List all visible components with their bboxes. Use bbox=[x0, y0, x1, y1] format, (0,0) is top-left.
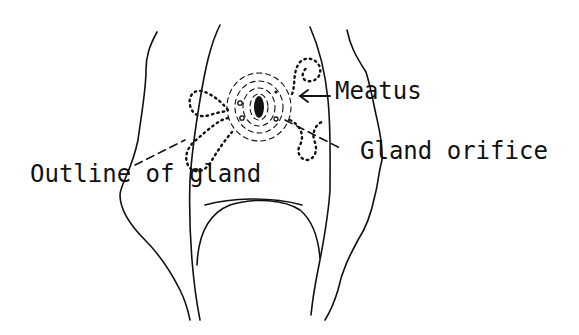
gland-outline-right-lower bbox=[290, 120, 322, 160]
label-gland-orifice: Gland orifice bbox=[360, 137, 548, 165]
label-outline-of-gland: Outline of gland bbox=[30, 160, 261, 188]
vestibule-arch bbox=[197, 200, 320, 265]
gland-outline-left-upper bbox=[190, 91, 228, 116]
meatus-opening bbox=[254, 96, 264, 118]
gland-orifice-dot bbox=[238, 101, 242, 105]
diagram-canvas: Meatus Gland orifice Outline of gland bbox=[0, 0, 579, 335]
gland-outline-right-upper bbox=[292, 59, 320, 94]
gland-orifice-leader bbox=[285, 120, 340, 148]
label-meatus: Meatus bbox=[335, 77, 422, 105]
outer-right-contour bbox=[325, 30, 382, 320]
